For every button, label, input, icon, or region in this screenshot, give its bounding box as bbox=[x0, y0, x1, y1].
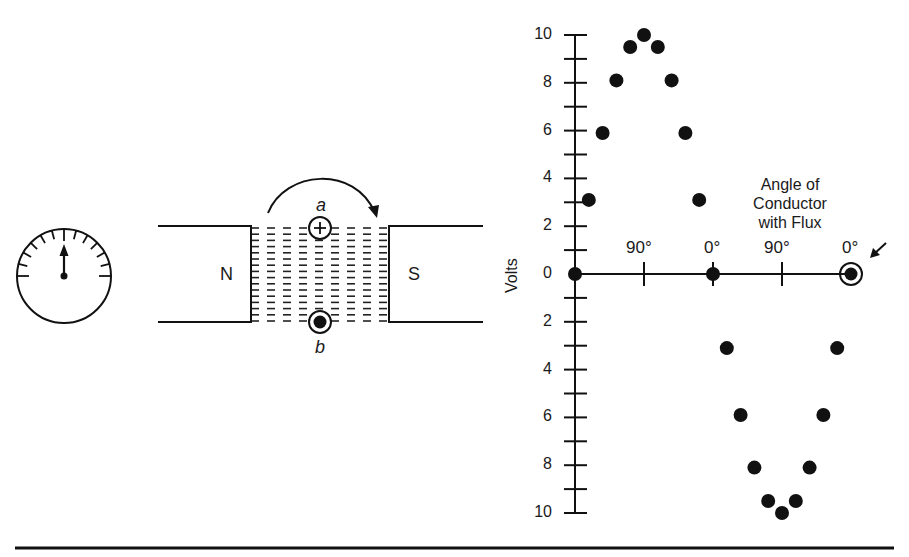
y-tick-label: 2 bbox=[522, 312, 552, 330]
x-axis-title-line1: Angle of bbox=[730, 175, 850, 194]
x-axis-title-line2: Conductor bbox=[730, 194, 850, 213]
arrow-pointer-icon bbox=[870, 243, 886, 258]
x-tick-label: 90° bbox=[626, 238, 652, 258]
y-tick-label: 4 bbox=[522, 360, 552, 378]
y-tick-label: 6 bbox=[522, 407, 552, 425]
x-tick-label: 0° bbox=[842, 238, 858, 258]
galvanometer-icon bbox=[17, 229, 111, 323]
magnetic-flux-lines bbox=[252, 228, 387, 321]
data-point bbox=[761, 494, 775, 508]
data-point bbox=[775, 506, 789, 520]
y-tick-label: 10 bbox=[522, 25, 552, 43]
data-point bbox=[609, 73, 623, 87]
data-point bbox=[623, 40, 637, 54]
data-point bbox=[803, 461, 817, 475]
x-axis-title-line3: with Flux bbox=[730, 213, 850, 232]
figure-canvas bbox=[0, 0, 909, 557]
y-tick-label: 0 bbox=[522, 264, 552, 282]
data-point bbox=[706, 267, 720, 281]
data-point bbox=[789, 494, 803, 508]
data-point bbox=[692, 193, 706, 207]
x-tick-label: 0° bbox=[704, 238, 720, 258]
y-tick-label: 4 bbox=[522, 168, 552, 186]
y-tick-label: 10 bbox=[522, 503, 552, 521]
data-point bbox=[734, 408, 748, 422]
data-point bbox=[582, 193, 596, 207]
data-point bbox=[845, 268, 858, 281]
conductor-a-label: a bbox=[316, 195, 326, 216]
x-axis-title: Angle of Conductor with Flux bbox=[730, 175, 850, 232]
y-tick-label: 2 bbox=[522, 216, 552, 234]
x-tick-label: 90° bbox=[764, 238, 790, 258]
south-pole-magnet bbox=[389, 226, 483, 322]
conductor-b-out-of-page-icon bbox=[309, 311, 331, 333]
data-point bbox=[830, 341, 844, 355]
data-point bbox=[678, 126, 692, 140]
data-point bbox=[816, 408, 830, 422]
data-point bbox=[568, 267, 582, 281]
y-tick-label: 6 bbox=[522, 121, 552, 139]
north-pole-magnet bbox=[158, 226, 251, 322]
data-point bbox=[596, 126, 610, 140]
data-point bbox=[747, 461, 761, 475]
y-tick-label: 8 bbox=[522, 73, 552, 91]
data-point bbox=[637, 28, 651, 42]
conductor-b-label: b bbox=[315, 337, 325, 358]
data-point bbox=[665, 73, 679, 87]
y-axis-title: Volts bbox=[503, 258, 521, 293]
conductor-a-into-page-icon bbox=[309, 217, 331, 239]
south-pole-label: S bbox=[408, 264, 420, 285]
generator-diagram-figure: N S a b Volts 1086420246810 90°0°90°0° A… bbox=[0, 0, 909, 557]
north-pole-label: N bbox=[220, 264, 233, 285]
y-tick-label: 8 bbox=[522, 455, 552, 473]
data-point bbox=[720, 341, 734, 355]
data-point bbox=[651, 40, 665, 54]
